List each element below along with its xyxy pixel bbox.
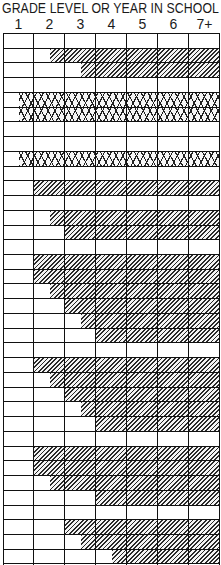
chart-row bbox=[4, 167, 220, 182]
chart-row bbox=[4, 78, 220, 93]
hatch-bar bbox=[50, 476, 221, 490]
hatch-bar bbox=[50, 211, 221, 225]
grade-header-3: 3 bbox=[65, 16, 96, 32]
chart-row bbox=[4, 34, 220, 49]
hatch-bar bbox=[34, 270, 220, 284]
chart-row bbox=[4, 329, 220, 344]
hatch-bar bbox=[34, 255, 220, 269]
grade-header-1: 1 bbox=[3, 16, 34, 32]
hatch-bar bbox=[81, 535, 221, 549]
crosshatch-bar bbox=[19, 93, 221, 107]
hatch-bar bbox=[81, 402, 221, 416]
grid-rows bbox=[4, 34, 220, 564]
chart-row bbox=[4, 108, 220, 123]
chart-row bbox=[4, 270, 220, 285]
chart-row bbox=[4, 461, 220, 476]
chart-row bbox=[4, 211, 220, 226]
hatch-bar bbox=[81, 314, 221, 328]
grade-header-6: 6 bbox=[158, 16, 189, 32]
hatch-bar bbox=[81, 63, 221, 77]
chart-row bbox=[4, 93, 220, 108]
grade-column-headers: 1 2 3 4 5 6 7+ bbox=[3, 16, 220, 32]
chart-title: GRADE LEVEL OR YEAR IN SCHOOL bbox=[2, 0, 219, 16]
chart-row bbox=[4, 240, 220, 255]
crosshatch-bar bbox=[19, 152, 221, 166]
chart-row bbox=[4, 358, 220, 373]
chart-row bbox=[4, 447, 220, 462]
hatch-bar bbox=[50, 373, 221, 387]
hatch-bar bbox=[65, 299, 220, 313]
chart-row bbox=[4, 152, 220, 167]
chart-row bbox=[4, 476, 220, 491]
hatch-bar bbox=[96, 417, 220, 431]
chart-row bbox=[4, 402, 220, 417]
chart-row bbox=[4, 432, 220, 447]
chart-row bbox=[4, 196, 220, 211]
hatch-bar bbox=[65, 388, 220, 402]
chart-row bbox=[4, 122, 220, 137]
hatch-bar bbox=[65, 520, 220, 534]
chart-row bbox=[4, 550, 220, 565]
hatch-bar bbox=[34, 461, 220, 475]
chart-row bbox=[4, 388, 220, 403]
hatch-bar bbox=[96, 329, 220, 343]
hatch-bar bbox=[112, 550, 221, 564]
chart-row bbox=[4, 314, 220, 329]
hatch-bar bbox=[34, 358, 220, 372]
grade-header-7-plus: 7+ bbox=[189, 16, 220, 32]
grade-chart-grid bbox=[3, 33, 220, 565]
hatch-bar bbox=[34, 447, 220, 461]
hatch-bar bbox=[50, 284, 221, 298]
hatch-bar bbox=[96, 491, 220, 505]
chart-row bbox=[4, 343, 220, 358]
grade-header-2: 2 bbox=[34, 16, 65, 32]
grade-header-5: 5 bbox=[127, 16, 158, 32]
chart-row bbox=[4, 373, 220, 388]
chart-row bbox=[4, 506, 220, 521]
chart-row bbox=[4, 299, 220, 314]
chart-row bbox=[4, 491, 220, 506]
hatch-bar bbox=[50, 49, 221, 63]
crosshatch-bar bbox=[19, 108, 221, 122]
chart-row bbox=[4, 535, 220, 550]
chart-row bbox=[4, 226, 220, 241]
chart-row bbox=[4, 520, 220, 535]
chart-row bbox=[4, 181, 220, 196]
chart-row bbox=[4, 284, 220, 299]
chart-row bbox=[4, 137, 220, 152]
chart-row bbox=[4, 417, 220, 432]
hatch-bar bbox=[34, 181, 220, 195]
hatch-bar bbox=[65, 226, 220, 240]
chart-row bbox=[4, 49, 220, 64]
chart-row bbox=[4, 63, 220, 78]
chart-row bbox=[4, 255, 220, 270]
grade-header-4: 4 bbox=[96, 16, 127, 32]
